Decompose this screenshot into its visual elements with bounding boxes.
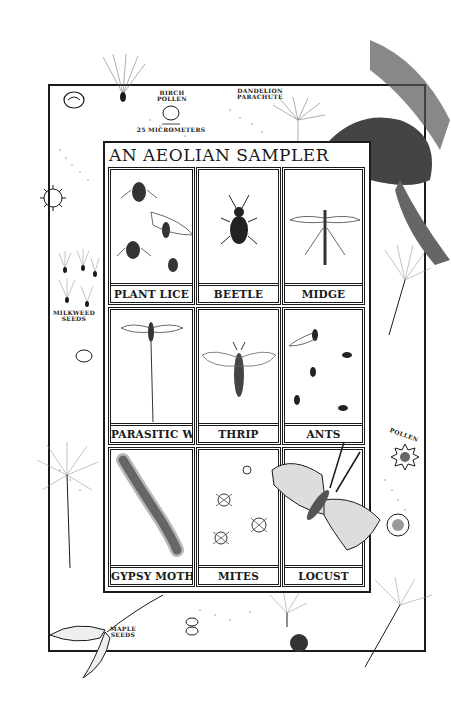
- pollen-grain-right-icon: [390, 442, 420, 472]
- locust-icon: [262, 440, 387, 555]
- cell-label: GYPSY MOTH-larva-: [111, 565, 192, 584]
- cell-label: PLANT LICE: [111, 283, 192, 302]
- birch-pollen-icon: [158, 103, 184, 127]
- milkweed-seeds-icon: [55, 248, 103, 308]
- midge-icon: [285, 170, 363, 285]
- maple-seeds-icon: [45, 590, 165, 685]
- cell-midge: MIDGE: [282, 167, 365, 305]
- spiky-pollen-icon: [38, 183, 68, 213]
- dandelion-seed-left-icon: [32, 440, 102, 570]
- seed-icon: [74, 348, 94, 364]
- cell-parasitic-wasp: PARASITIC WASP: [108, 307, 195, 445]
- thrip-icon: [199, 310, 279, 425]
- cell-gypsy-moth-larva: GYPSY MOTH-larva-: [108, 447, 195, 587]
- round-pollen-icon: [385, 512, 411, 538]
- maple-seeds-label: MAPLE SEEDS: [106, 626, 140, 638]
- dark-pollen-icon: [288, 632, 310, 654]
- cell-label: LOCUST: [285, 565, 362, 584]
- cell-label: MITES: [199, 565, 278, 584]
- dandelion-seed-bottom-right-icon: [360, 575, 440, 670]
- sampler-title: AN AEOLIAN SAMPLER: [109, 145, 329, 165]
- cell-ants: ANTS: [282, 307, 365, 445]
- scale-bar-label: 25 MICROMETERS: [135, 127, 207, 133]
- cell-label: PARASITIC WASP: [111, 423, 192, 442]
- cell-thrip: THRIP: [196, 307, 281, 445]
- cell-plant-lice: PLANT LICE: [108, 167, 195, 305]
- milkweed-seeds-label: MILKWEED SEEDS: [50, 310, 98, 322]
- plant-lice-icon: [111, 170, 193, 285]
- birch-pollen-label: BIRCH POLLEN: [152, 90, 192, 102]
- cell-label: MIDGE: [285, 283, 362, 302]
- gypsy-moth-larva-icon: [111, 450, 193, 567]
- pollen-pair-icon: [182, 615, 202, 637]
- cell-label: BEETLE: [199, 283, 278, 302]
- cell-beetle: BEETLE: [196, 167, 281, 305]
- parasitic-wasp-icon: [111, 310, 193, 425]
- pollen-grain-icon: [62, 90, 86, 110]
- dandelion-seed-icon: [98, 52, 148, 104]
- beetle-icon: [199, 170, 279, 285]
- ants-icon: [285, 310, 363, 425]
- dandelion-seed-right-icon: [375, 240, 435, 340]
